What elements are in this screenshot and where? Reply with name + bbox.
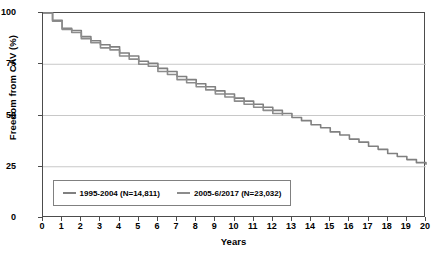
x-tick-label: 10 xyxy=(224,221,244,231)
x-tick-mark xyxy=(214,217,215,221)
legend-line-swatch xyxy=(177,192,190,194)
x-tick-mark xyxy=(138,217,139,221)
series-line-0 xyxy=(43,13,426,165)
x-tick-label: 0 xyxy=(32,221,52,231)
x-tick-mark xyxy=(291,217,292,221)
x-tick-label: 3 xyxy=(89,221,109,231)
x-tick-mark xyxy=(119,217,120,221)
y-tick-mark xyxy=(38,12,42,13)
x-tick-label: 4 xyxy=(109,221,129,231)
x-tick-mark xyxy=(348,217,349,221)
x-tick-label: 7 xyxy=(166,221,186,231)
x-tick-mark xyxy=(234,217,235,221)
survival-chart-figure: Freedom from CAV (%) 0255075100 01234567… xyxy=(0,0,448,257)
x-tick-mark xyxy=(253,217,254,221)
x-tick-mark xyxy=(272,217,273,221)
x-tick-label: 6 xyxy=(147,221,167,231)
x-tick-label: 1 xyxy=(51,221,71,231)
x-tick-mark xyxy=(61,217,62,221)
x-tick-label: 2 xyxy=(70,221,90,231)
x-tick-label: 19 xyxy=(396,221,416,231)
x-tick-label: 18 xyxy=(377,221,397,231)
y-tick-mark xyxy=(38,115,42,116)
x-tick-mark xyxy=(157,217,158,221)
legend-item-1: 2005-6/2017 (N=23,032) xyxy=(177,189,281,198)
x-tick-label: 5 xyxy=(128,221,148,231)
x-tick-mark xyxy=(195,217,196,221)
x-tick-label: 13 xyxy=(281,221,301,231)
y-tick-mark xyxy=(38,166,42,167)
y-tick-label: 50 xyxy=(0,110,16,120)
x-tick-mark xyxy=(80,217,81,221)
x-tick-mark xyxy=(387,217,388,221)
x-tick-mark xyxy=(176,217,177,221)
y-tick-label: 75 xyxy=(0,58,16,68)
y-tick-label: 100 xyxy=(0,7,16,17)
series-line-1 xyxy=(43,13,282,116)
x-tick-label: 11 xyxy=(243,221,263,231)
x-tick-label: 17 xyxy=(358,221,378,231)
x-tick-mark xyxy=(406,217,407,221)
y-tick-label: 25 xyxy=(0,161,16,171)
legend-label: 1995-2004 (N=14,811) xyxy=(80,189,160,198)
x-tick-mark xyxy=(310,217,311,221)
x-tick-label: 15 xyxy=(319,221,339,231)
x-tick-label: 20 xyxy=(415,221,435,231)
x-tick-label: 12 xyxy=(262,221,282,231)
x-tick-mark xyxy=(368,217,369,221)
y-axis-title: Freedom from CAV (%) xyxy=(7,18,18,158)
x-tick-label: 14 xyxy=(300,221,320,231)
chart-legend: 1995-2004 (N=14,811)2005-6/2017 (N=23,03… xyxy=(53,180,291,206)
legend-label: 2005-6/2017 (N=23,032) xyxy=(194,189,281,198)
x-tick-mark xyxy=(42,217,43,221)
legend-item-0: 1995-2004 (N=14,811) xyxy=(63,189,160,198)
x-tick-mark xyxy=(99,217,100,221)
y-tick-mark xyxy=(38,63,42,64)
x-tick-label: 8 xyxy=(185,221,205,231)
x-tick-mark xyxy=(329,217,330,221)
x-tick-mark xyxy=(425,217,426,221)
legend-line-swatch xyxy=(63,192,76,194)
y-tick-label: 0 xyxy=(0,212,16,222)
x-tick-label: 9 xyxy=(204,221,224,231)
x-axis-title: Years xyxy=(42,236,425,247)
x-tick-label: 16 xyxy=(338,221,358,231)
